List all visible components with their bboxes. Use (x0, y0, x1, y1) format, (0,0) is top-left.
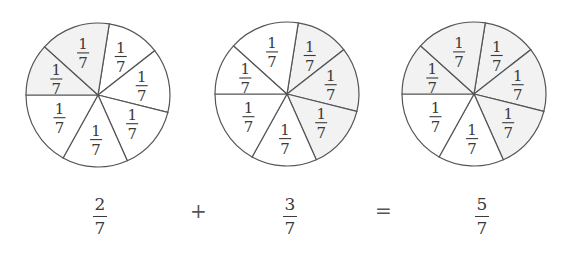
term2-fraction: 3 7 (275, 196, 305, 237)
sector-denominator: 7 (137, 87, 147, 105)
sector-numerator: 1 (305, 38, 315, 56)
sector-numerator: 1 (78, 35, 88, 53)
sector-denominator: 7 (326, 86, 336, 104)
sector-denominator: 7 (116, 58, 126, 76)
sector-numerator: 1 (116, 39, 126, 57)
sector-denominator: 7 (431, 118, 441, 136)
fraction-circles: 1717171717171717171717171717171717171717… (0, 0, 565, 190)
sector-denominator: 7 (305, 57, 315, 75)
sector-numerator: 1 (241, 60, 251, 78)
circle-2: 17171717171717 (215, 22, 359, 166)
sector-numerator: 1 (91, 122, 101, 140)
sector-denominator: 7 (492, 57, 502, 75)
fraction-bar (93, 216, 107, 217)
sector-denominator: 7 (267, 53, 277, 71)
sector-numerator: 1 (267, 34, 277, 52)
result-numerator: 5 (467, 196, 497, 213)
sector-numerator: 1 (137, 68, 147, 86)
sector-denominator: 7 (467, 140, 477, 158)
result-fraction: 5 7 (467, 196, 497, 237)
sector-denominator: 7 (52, 80, 62, 98)
sector-numerator: 1 (431, 99, 441, 117)
term1-numerator: 2 (85, 196, 115, 213)
sector-denominator: 7 (91, 141, 101, 159)
sector-numerator: 1 (316, 105, 326, 123)
sector-denominator: 7 (503, 124, 513, 142)
sector-numerator: 1 (326, 67, 336, 85)
sector-numerator: 1 (467, 121, 477, 139)
term1-fraction: 2 7 (85, 196, 115, 237)
sector-denominator: 7 (280, 140, 290, 158)
sector-numerator: 1 (244, 99, 254, 117)
sector-denominator: 7 (244, 118, 254, 136)
sector-denominator: 7 (241, 79, 251, 97)
fraction-bar (475, 216, 489, 217)
sector-numerator: 1 (55, 100, 65, 118)
sector-numerator: 1 (428, 60, 438, 78)
result-denominator: 7 (467, 220, 497, 237)
fraction-bar (283, 216, 297, 217)
sector-numerator: 1 (52, 61, 62, 79)
sector-numerator: 1 (513, 67, 523, 85)
term1-denominator: 7 (85, 220, 115, 237)
sector-numerator: 1 (280, 121, 290, 139)
circle-1: 17171717171717 (26, 23, 170, 167)
sector-numerator: 1 (127, 106, 137, 124)
term2-numerator: 3 (275, 196, 305, 213)
sector-numerator: 1 (454, 34, 464, 52)
sector-numerator: 1 (503, 105, 513, 123)
sector-denominator: 7 (316, 124, 326, 142)
sector-denominator: 7 (55, 119, 65, 137)
equals-sign: = (375, 201, 392, 221)
sector-denominator: 7 (454, 53, 464, 71)
circle-3: 17171717171717 (402, 22, 546, 166)
fraction-addition-diagram: 1717171717171717171717171717171717171717… (0, 0, 565, 255)
sector-denominator: 7 (78, 54, 88, 72)
sector-numerator: 1 (492, 38, 502, 56)
plus-sign: + (190, 201, 207, 221)
sector-denominator: 7 (428, 79, 438, 97)
sector-denominator: 7 (127, 125, 137, 143)
sector-denominator: 7 (513, 86, 523, 104)
term2-denominator: 7 (275, 220, 305, 237)
